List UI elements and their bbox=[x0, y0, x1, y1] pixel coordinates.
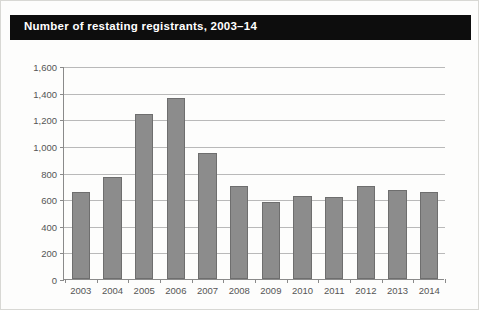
y-axis-tick-mark bbox=[60, 120, 64, 121]
bar bbox=[135, 114, 153, 279]
y-axis-tick-label: 200 bbox=[41, 248, 57, 259]
x-axis-tick-label: 2009 bbox=[255, 285, 287, 296]
x-axis-tick-mark bbox=[97, 279, 98, 283]
y-axis-tick-label: 1,400 bbox=[33, 88, 57, 99]
bar-slot bbox=[160, 66, 192, 279]
bar bbox=[262, 202, 280, 279]
y-axis-tick-mark bbox=[60, 94, 64, 95]
x-axis-tick-mark bbox=[192, 279, 193, 283]
bar-slot bbox=[223, 66, 255, 279]
bar bbox=[388, 190, 406, 279]
x-axis-tick-mark bbox=[128, 279, 129, 283]
chart-figure: Number of restating registrants, 2003–14… bbox=[0, 0, 479, 310]
y-axis-tick-mark bbox=[60, 280, 64, 281]
bar-slot bbox=[318, 66, 350, 279]
x-axis-tick-mark bbox=[65, 279, 66, 283]
bar bbox=[420, 192, 438, 279]
x-axis-tick-label: 2013 bbox=[382, 285, 414, 296]
x-axis-tick-mark bbox=[255, 279, 256, 283]
x-axis-tick-mark bbox=[445, 279, 446, 283]
y-axis-tick-label: 1,600 bbox=[33, 62, 57, 73]
x-axis-tick-label: 2006 bbox=[160, 285, 192, 296]
plot-wrapper: 02004006008001,0001,2001,4001,600 200320… bbox=[1, 1, 479, 310]
y-axis-tick-mark bbox=[60, 67, 64, 68]
bar-slot bbox=[128, 66, 160, 279]
x-axis-tick-label: 2003 bbox=[65, 285, 97, 296]
y-axis-tick-label: 1,000 bbox=[33, 141, 57, 152]
x-axis-tick-mark bbox=[350, 279, 351, 283]
y-axis-tick-mark bbox=[60, 200, 64, 201]
x-axis-tick-label: 2014 bbox=[413, 285, 445, 296]
plot-area: 02004006008001,0001,2001,4001,600 200320… bbox=[63, 67, 444, 280]
y-axis-tick-mark bbox=[60, 227, 64, 228]
bar-slot bbox=[97, 66, 129, 279]
bar-slot bbox=[255, 66, 287, 279]
y-axis-tick-label: 800 bbox=[41, 168, 57, 179]
bar-slot bbox=[382, 66, 414, 279]
bar-slot bbox=[65, 66, 97, 279]
bar bbox=[325, 197, 343, 279]
x-axis-tick-label: 2005 bbox=[128, 285, 160, 296]
x-axis-tick-label: 2007 bbox=[192, 285, 224, 296]
x-axis-tick-label: 2008 bbox=[223, 285, 255, 296]
x-axis-tick-label: 2010 bbox=[287, 285, 319, 296]
y-axis-tick-label: 400 bbox=[41, 221, 57, 232]
x-axis-tick-mark bbox=[318, 279, 319, 283]
y-axis-tick-mark bbox=[60, 253, 64, 254]
bar bbox=[357, 186, 375, 279]
y-axis-tick-label: 0 bbox=[52, 275, 57, 286]
bar-slot bbox=[192, 66, 224, 279]
bar-slot bbox=[350, 66, 382, 279]
bars-group bbox=[65, 66, 445, 279]
x-axis-tick-label: 2011 bbox=[318, 285, 350, 296]
bar bbox=[167, 98, 185, 279]
x-axis-labels-group: 2003200420052006200720082009201020112012… bbox=[65, 285, 445, 296]
x-axis-tick-label: 2012 bbox=[350, 285, 382, 296]
x-axis-ticks-group bbox=[65, 279, 445, 284]
bar bbox=[103, 177, 121, 280]
bar bbox=[72, 192, 90, 279]
y-axis-tick-mark bbox=[60, 147, 64, 148]
x-axis-tick-mark bbox=[287, 279, 288, 283]
x-axis-tick-mark bbox=[382, 279, 383, 283]
x-axis-tick-mark bbox=[413, 279, 414, 283]
bar bbox=[293, 196, 311, 279]
y-axis-tick-label: 1,200 bbox=[33, 115, 57, 126]
bar bbox=[198, 153, 216, 279]
x-axis-tick-label: 2004 bbox=[97, 285, 129, 296]
y-axis-tick-mark bbox=[60, 174, 64, 175]
bar bbox=[230, 186, 248, 279]
bar-slot bbox=[413, 66, 445, 279]
x-axis-tick-mark bbox=[223, 279, 224, 283]
y-axis-tick-label: 600 bbox=[41, 195, 57, 206]
x-axis-tick-mark bbox=[160, 279, 161, 283]
bar-slot bbox=[287, 66, 319, 279]
